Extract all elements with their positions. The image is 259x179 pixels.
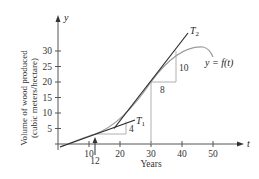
y-axis-variable: y [63,12,69,23]
t12-label: 12 [90,156,100,166]
rise-label-t2: 10 [179,63,189,73]
rise-label-t1: 4 [129,124,134,134]
chart: y t 5 10 15 20 25 30 10 20 30 40 50 Year… [0,0,259,179]
x-axis-variable: t [247,138,250,149]
tangent-label-t2: T2 [190,25,200,38]
y-tick-label: 20 [43,77,53,87]
y-tick-label: 30 [43,46,53,56]
x-tick-label: 50 [208,149,218,159]
x-tick-label: 40 [177,149,187,159]
curve-f-of-t [60,47,213,147]
y-axis-label-line2: (cubic meters/hectare) [29,58,39,138]
t12-arrow-icon [93,137,98,143]
run-label-t2: 8 [160,85,165,95]
y-tick-label: 5 [47,124,52,134]
y-tick-label: 25 [43,62,53,72]
x-tick-label: 30 [146,149,156,159]
x-axis-arrow-icon [237,142,244,147]
tangent-label-t1: T1 [136,115,146,128]
y-axis-label: Volume of wood produced (cubic meters/he… [19,50,39,146]
x-tick-label: 20 [115,149,125,159]
x-axis-label: Years [140,159,162,169]
y-tick-label: 10 [43,108,53,118]
y-axis-label-line1: Volume of wood produced [19,50,29,146]
y-axis-arrow-icon [56,15,61,22]
curve-label: y = f(t) [204,57,234,69]
y-tick-label: 15 [43,93,53,103]
